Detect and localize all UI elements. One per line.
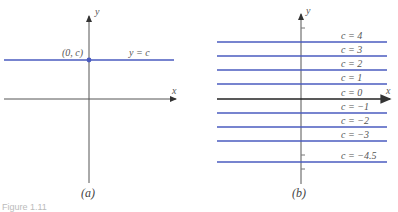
- y-axis-label: y: [305, 5, 311, 16]
- figure-canvas: y x (0, c) y = c y c = 4 c = 3 c = 2 c =…: [0, 0, 398, 212]
- level-line-c-1: c = 1: [217, 72, 387, 84]
- level-line-c-minus-2: c = −2: [217, 115, 387, 127]
- y-axis-label: y: [94, 6, 100, 17]
- level-line-c-4: c = 4: [217, 30, 387, 42]
- line-label: y = c: [128, 47, 150, 58]
- svg-text:c = −4.5: c = −4.5: [341, 150, 376, 161]
- level-line-c-3: c = 3: [217, 44, 387, 56]
- svg-text:c = 2: c = 2: [341, 58, 362, 69]
- svg-text:c = 0: c = 0: [341, 87, 362, 98]
- panel-a: y x (0, c) y = c: [4, 6, 177, 183]
- level-line-c-0-x-axis: c = 0 x: [217, 85, 391, 99]
- point-label: (0, c): [62, 47, 84, 59]
- svg-text:c = 4: c = 4: [341, 30, 362, 41]
- panel-b: y c = 4 c = 3 c = 2 c = 1 c = 0 x c: [217, 5, 391, 184]
- svg-text:c = −2: c = −2: [341, 115, 369, 126]
- svg-text:c = 3: c = 3: [341, 44, 362, 55]
- x-axis-label: x: [171, 85, 177, 96]
- caption-a: (a): [81, 186, 95, 201]
- level-line-c-minus-1: c = −1: [217, 101, 387, 113]
- figure-caption-fragment: Figure 1.11: [2, 202, 47, 212]
- svg-text:c = −3: c = −3: [341, 129, 369, 140]
- point-0-c: [87, 58, 92, 63]
- svg-text:c = −1: c = −1: [341, 101, 369, 112]
- svg-text:c = 1: c = 1: [341, 72, 362, 83]
- level-line-c-minus-4-5: c = −4.5: [217, 150, 387, 162]
- level-line-c-minus-3: c = −3: [217, 129, 387, 141]
- level-line-c-2: c = 2: [217, 58, 387, 70]
- x-axis-label: x: [385, 85, 391, 96]
- caption-b: (b): [292, 186, 306, 201]
